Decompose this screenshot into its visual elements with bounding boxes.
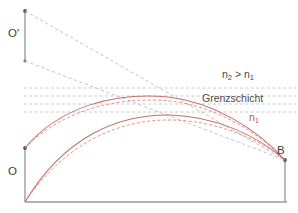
ray-solid-upper <box>25 96 285 160</box>
apparent-source-marker <box>23 9 27 63</box>
real-source-label: O <box>8 166 17 178</box>
observer-label: B <box>277 145 285 157</box>
ray-dashed-upper <box>25 100 285 160</box>
diagram-canvas <box>0 0 298 213</box>
virtual-rays <box>25 11 285 160</box>
upper-medium-relation: > <box>232 68 244 80</box>
upper-medium-sub2: 1 <box>250 73 254 82</box>
real-source-marker <box>23 146 27 202</box>
upper-medium-label: n2 > n1 <box>222 69 254 81</box>
observer-marker <box>283 158 287 202</box>
mirage-ray-diagram: O' O B n2 > n1 Grenzschicht n1 <box>0 0 298 213</box>
virtual-ray-top <box>25 11 285 160</box>
lower-medium-label: n1 <box>249 112 259 124</box>
boundary-layer-label: Grenzschicht <box>202 93 263 104</box>
ray-dashed-lower <box>25 120 285 202</box>
apparent-source-label: O' <box>8 28 19 40</box>
lower-medium-sub: 1 <box>255 116 259 125</box>
